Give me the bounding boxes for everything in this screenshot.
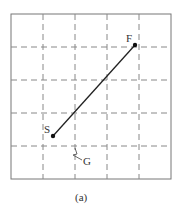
path-line bbox=[53, 45, 135, 136]
finish-point bbox=[133, 43, 137, 47]
figure-caption: (a) bbox=[75, 191, 88, 204]
finish-label: F bbox=[126, 32, 132, 44]
g-label: G bbox=[83, 155, 91, 167]
grid-diagram: S F G (a) bbox=[0, 0, 180, 208]
grid-border bbox=[11, 14, 171, 179]
start-label: S bbox=[44, 123, 50, 135]
g-leader-line bbox=[73, 148, 82, 160]
start-point bbox=[51, 134, 55, 138]
grid-lines bbox=[11, 14, 171, 179]
